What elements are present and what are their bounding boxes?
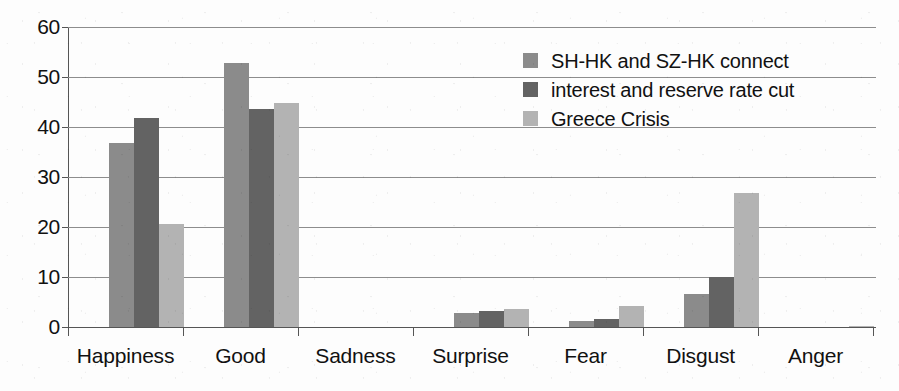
bar-fear-series3 <box>619 306 644 327</box>
legend-label: SH-HK and SZ-HK connect <box>551 50 789 72</box>
legend-swatch-icon <box>523 82 538 97</box>
chart-legend: SH-HK and SZ-HK connect interest and res… <box>523 47 853 134</box>
bar-good-series3 <box>274 103 299 327</box>
legend-swatch-icon <box>523 53 538 68</box>
bar-chart-figure: 60 50 40 30 20 10 0 <box>0 0 899 391</box>
y-tick-label-0: 0 <box>14 316 60 337</box>
y-axis: 60 50 40 30 20 10 0 <box>0 0 60 391</box>
bar-group-happiness <box>109 27 199 327</box>
x-tick-mark <box>528 327 529 336</box>
bar-happiness-series2 <box>134 118 159 327</box>
y-tick-label-10: 10 <box>14 266 60 287</box>
bar-happiness-series1 <box>109 143 134 327</box>
legend-item-sh-hk-and-sz-hk-connect: SH-HK and SZ-HK connect <box>523 47 853 74</box>
y-tick-label-50: 50 <box>14 66 60 87</box>
x-axis-label-anger: Anger <box>758 344 873 368</box>
bar-happiness-series3 <box>159 224 184 327</box>
x-tick-mark <box>68 327 69 336</box>
y-tick-label-20: 20 <box>14 216 60 237</box>
bar-disgust-series3 <box>734 193 759 327</box>
x-axis-label-happiness: Happiness <box>68 344 183 368</box>
bar-disgust-series1 <box>684 294 709 327</box>
bar-good-series2 <box>249 109 274 327</box>
legend-item-interest-and-reserve-rate-cut: interest and reserve rate cut <box>523 76 853 103</box>
x-tick-mark <box>298 327 299 336</box>
bar-disgust-series2 <box>709 277 734 327</box>
x-axis-label-disgust: Disgust <box>643 344 758 368</box>
bar-good-series1 <box>224 63 249 327</box>
x-tick-mark <box>873 327 874 336</box>
x-axis-label-sadness: Sadness <box>298 344 413 368</box>
bar-fear-series1 <box>569 321 594 327</box>
gridline-0-baseline <box>68 327 876 328</box>
bar-surprise-series3 <box>504 309 529 327</box>
y-tick-label-60: 60 <box>14 16 60 37</box>
x-tick-mark <box>643 327 644 336</box>
x-tick-mark <box>183 327 184 336</box>
bar-surprise-series1 <box>454 313 479 327</box>
bar-group-good <box>224 27 314 327</box>
bar-anger-series3 <box>849 326 874 327</box>
x-axis-label-surprise: Surprise <box>413 344 528 368</box>
legend-item-greece-crisis: Greece Crisis <box>523 105 853 132</box>
bar-surprise-series2 <box>479 311 504 327</box>
x-axis-label-fear: Fear <box>528 344 643 368</box>
legend-label: interest and reserve rate cut <box>551 79 794 101</box>
y-tick-label-30: 30 <box>14 166 60 187</box>
legend-swatch-icon <box>523 111 538 126</box>
x-tick-mark <box>413 327 414 336</box>
x-tick-mark <box>758 327 759 336</box>
bar-group-sadness <box>339 27 429 327</box>
bar-fear-series2 <box>594 319 619 327</box>
legend-label: Greece Crisis <box>551 108 670 130</box>
x-axis-label-good: Good <box>183 344 298 368</box>
y-tick-label-40: 40 <box>14 116 60 137</box>
